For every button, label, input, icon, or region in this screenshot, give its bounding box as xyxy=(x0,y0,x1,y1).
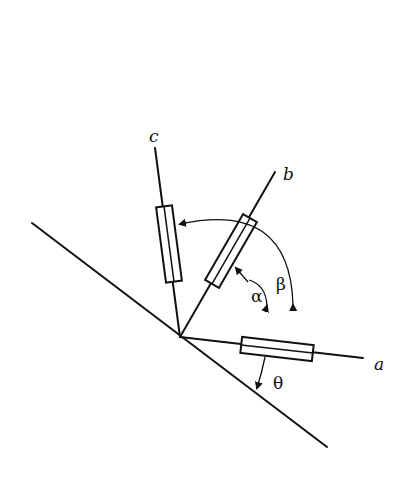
label-c: c xyxy=(149,126,159,146)
label-a: a xyxy=(374,354,384,374)
gauge-c xyxy=(156,205,182,282)
strain-gauge-diagram: a b c α β θ xyxy=(0,0,415,483)
theta-arc xyxy=(257,357,265,388)
gauge-a xyxy=(240,337,313,361)
label-b: b xyxy=(283,164,294,184)
label-beta: β xyxy=(276,274,286,294)
label-alpha: α xyxy=(251,286,263,306)
label-theta: θ xyxy=(273,373,283,393)
